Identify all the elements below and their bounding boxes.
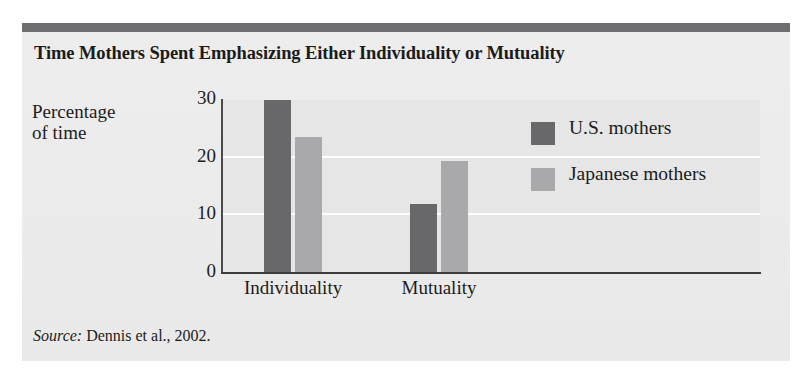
y-tick-label-20: 20 — [176, 145, 216, 167]
bar-mutuality-japan — [441, 161, 468, 273]
x-axis-line — [221, 272, 761, 274]
legend-swatch-us-mothers — [531, 122, 555, 145]
bar-individuality-us — [264, 100, 291, 273]
chart-legend: U.S. mothers Japanese mothers — [531, 118, 781, 210]
y-axis-label: Percentage of time — [32, 101, 182, 143]
legend-label-japanese-mothers: Japanese mothers — [569, 163, 706, 185]
bar-mutuality-us — [410, 204, 437, 273]
y-axis-line — [221, 99, 223, 274]
x-axis-label-individuality: Individuality — [244, 277, 342, 299]
source-label: Source: — [33, 327, 82, 344]
y-tick-label-0: 0 — [176, 260, 216, 282]
y-axis-label-line-1: Percentage — [32, 101, 182, 122]
source-note: Source: Dennis et al., 2002. — [33, 327, 211, 345]
chart-figure: Time Mothers Spent Emphasizing Either In… — [0, 0, 806, 384]
chart-title: Time Mothers Spent Emphasizing Either In… — [34, 43, 774, 64]
bar-individuality-japan — [295, 137, 322, 273]
y-tick-label-30: 30 — [176, 87, 216, 109]
source-text: Dennis et al., 2002. — [86, 327, 210, 344]
card-header-bar — [22, 23, 790, 32]
y-tick-label-10: 10 — [176, 202, 216, 224]
legend-swatch-japanese-mothers — [531, 168, 555, 191]
x-axis-label-mutuality: Mutuality — [402, 277, 477, 299]
legend-label-us-mothers: U.S. mothers — [569, 117, 671, 139]
legend-item-us-mothers: U.S. mothers — [531, 118, 781, 164]
legend-item-japanese-mothers: Japanese mothers — [531, 164, 781, 210]
y-axis-label-line-2: of time — [32, 122, 182, 143]
